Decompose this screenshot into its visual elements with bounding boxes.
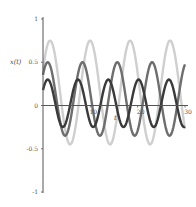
series-layer [43, 41, 185, 145]
y-axis-label: x(t) [10, 58, 22, 66]
chart: 10.50-0.5-1102030 x(t) t [0, 0, 196, 207]
y-tick-label: 0.5 [28, 58, 38, 65]
x-tick-label: 30 [184, 108, 192, 115]
x-tick-label: 10 [90, 108, 98, 115]
x-axis-label: t [114, 114, 117, 122]
y-tick-label: -1 [32, 188, 38, 195]
y-tick-label: -0.5 [26, 145, 38, 152]
x-tick-label: 20 [137, 108, 145, 115]
y-tick-label: 1 [34, 15, 38, 22]
y-tick-label: 0 [34, 102, 38, 109]
